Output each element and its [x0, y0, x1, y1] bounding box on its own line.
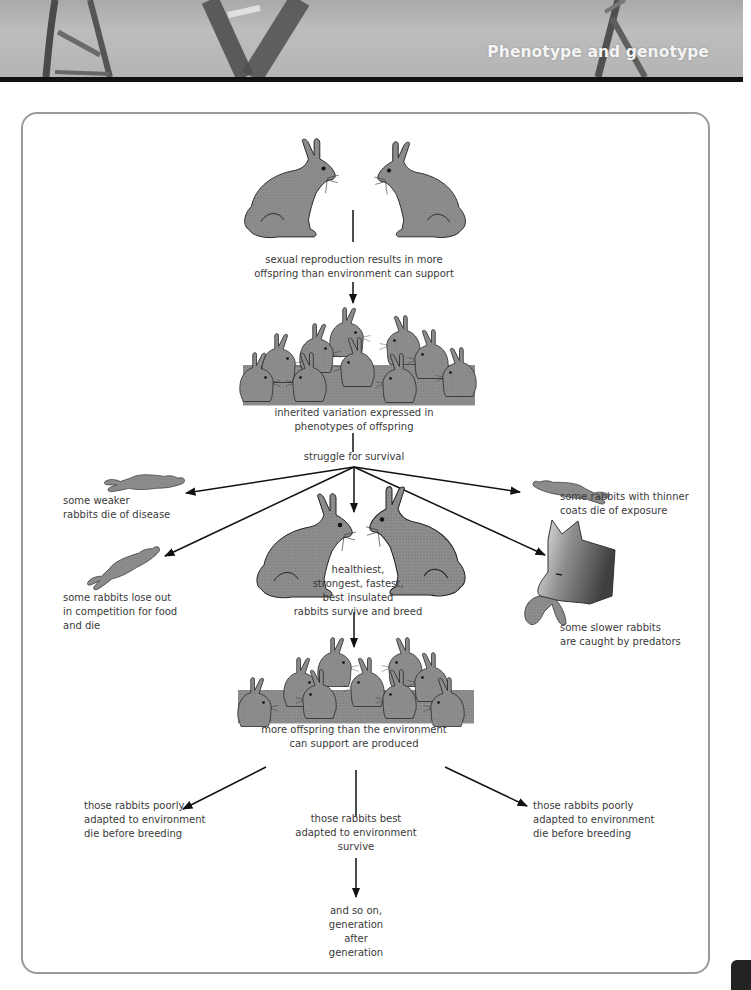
next-generation-caption: more offspring than the environment can … [244, 723, 464, 751]
outcome-poor-right-text: those rabbits poorly adapted to environm… [533, 799, 683, 841]
survivors-caption: healthiest, strongest, fastest, best ins… [283, 563, 433, 619]
parent-rabbit-left [245, 139, 339, 238]
offspring-crowd [240, 308, 476, 405]
fate-predators-text: some slower rabbits are caught by predat… [560, 621, 720, 649]
fate-competition-text: some rabbits lose out in competition for… [63, 591, 223, 633]
final-caption: and so on, generation after generation [306, 904, 406, 960]
outcome-poor-left-text: those rabbits poorly adapted to environm… [84, 799, 234, 841]
dead-rabbit-competition-icon [84, 543, 164, 592]
next-generation-crowd [238, 638, 474, 727]
offspring-caption: inherited variation expressed in phenoty… [254, 406, 454, 434]
outcome-best-text: those rabbits best adapted to environmen… [286, 812, 426, 854]
fate-exposure-text: some rabbits with thinner coats die of e… [560, 490, 730, 518]
parent-rabbit-right [374, 142, 465, 238]
struggle-caption: struggle for survival [284, 450, 424, 464]
page-number-tab [731, 960, 751, 990]
dead-rabbit-disease-icon [104, 475, 184, 492]
parents-caption: sexual reproduction results in more offs… [254, 253, 454, 281]
fox-with-rabbit-icon [525, 520, 615, 625]
fate-disease-text: some weaker rabbits die of disease [63, 494, 223, 522]
